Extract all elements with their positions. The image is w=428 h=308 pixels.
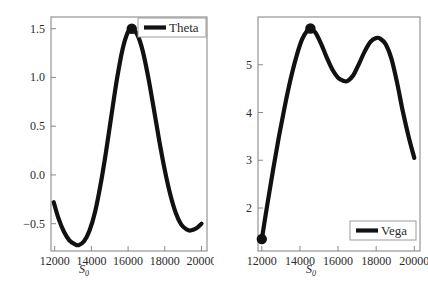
data-point-marker [305, 23, 315, 33]
legend-label-vega: Vega [381, 223, 407, 238]
xaxis-title-vega: S0 [204, 262, 418, 278]
data-point-marker [127, 24, 137, 34]
plot-frame [51, 17, 207, 251]
legend-label-theta: Theta [169, 20, 199, 35]
xaxis-title-subscript: 0 [312, 269, 316, 278]
ytick-label: −0.5 [23, 217, 45, 231]
data-curve-theta [54, 28, 202, 245]
ytick-label: 4 [246, 106, 252, 120]
ytick-label: 5 [246, 58, 252, 72]
xaxis-title-subscript: 0 [85, 269, 89, 278]
plot-frame [258, 17, 420, 251]
vega-plot: 12000140001600018000200002345 Vega [214, 0, 428, 270]
ytick-label: 3 [246, 153, 252, 167]
theta-panel: 1200014000160001800020000−0.50.00.51.01.… [0, 0, 214, 308]
data-point-marker [257, 234, 267, 244]
figure-container: 1200014000160001800020000−0.50.00.51.01.… [0, 0, 428, 308]
vega-panel: 12000140001600018000200002345 Vega S0 [214, 0, 428, 308]
data-markers [127, 24, 137, 34]
theta-plot: 1200014000160001800020000−0.50.00.51.01.… [0, 0, 214, 270]
xaxis-title-theta: S0 [0, 262, 191, 278]
ytick-label: 1.0 [30, 70, 45, 84]
ytick-label: 0.0 [30, 168, 45, 182]
legend-theta[interactable]: Theta [138, 18, 206, 37]
legend-vega[interactable]: Vega [350, 221, 416, 240]
data-curve-vega [262, 28, 414, 239]
ytick-label: 0.5 [30, 119, 45, 133]
ytick-label: 2 [246, 201, 252, 215]
ytick-label: 1.5 [30, 22, 45, 36]
